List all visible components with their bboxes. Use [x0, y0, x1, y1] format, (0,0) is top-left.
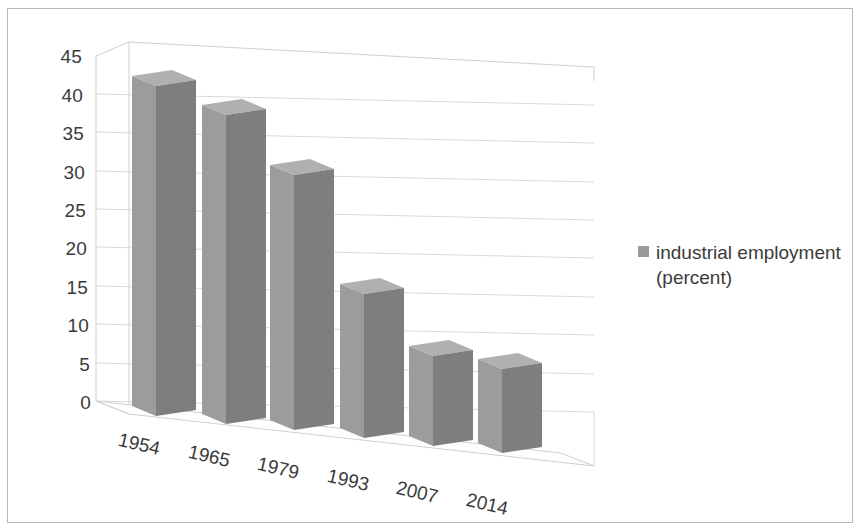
chart-frame: 45 40 35 30 25 20 15 10 5 0 1954 1965 19…: [7, 8, 853, 523]
y-tick-5: 5: [48, 354, 90, 376]
y-tick-40: 40: [41, 85, 83, 107]
bar-1979[interactable]: [270, 159, 334, 430]
legend-label-line2: (percent): [638, 265, 860, 290]
bar-1993[interactable]: [340, 278, 404, 438]
bar-2014[interactable]: [478, 353, 542, 453]
chart-legend[interactable]: industrial employment (percent): [638, 240, 860, 290]
y-tick-30: 30: [43, 162, 85, 184]
y-tick-35: 35: [42, 123, 84, 145]
y-tick-45: 45: [40, 46, 82, 68]
legend-color-swatch: [638, 246, 649, 257]
y-tick-0: 0: [49, 392, 91, 414]
left-wall-edge: [96, 42, 129, 414]
bar-2007[interactable]: [409, 340, 473, 446]
y-tick-25: 25: [44, 200, 86, 222]
legend-label-line1: industrial employment: [656, 242, 841, 263]
y-tick-20: 20: [45, 238, 87, 260]
bar-1965[interactable]: [202, 99, 266, 424]
bar-1954[interactable]: [132, 70, 196, 416]
y-tick-15: 15: [46, 277, 88, 299]
y-tick-10: 10: [47, 315, 89, 337]
